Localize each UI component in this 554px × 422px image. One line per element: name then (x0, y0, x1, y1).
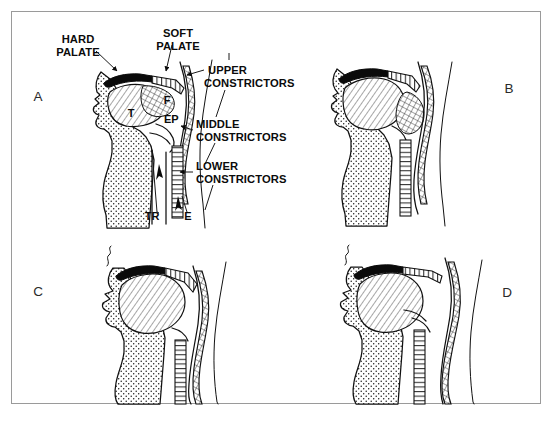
panel-b-neck-contour (440, 62, 452, 226)
callout-lower-constrictors-line-1: LOWER (196, 160, 238, 172)
callout-label-lower-constrictors: LOWER CONSTRICTORS (196, 160, 287, 185)
callout-label-middle-constrictors: MIDDLE CONSTRICTORS (196, 118, 287, 143)
panel-c-drawing (102, 246, 226, 404)
anatomical-diagram: HARD PALATE SOFT PALATE UPPER CONSTRICTO… (0, 0, 554, 422)
callout-lower-constrictors-line-2: CONSTRICTORS (196, 173, 287, 185)
inner-label-epiglottis: EP (164, 113, 179, 125)
callout-middle-constrictors-line-1: MIDDLE (196, 118, 240, 130)
panel-letter-b: B (504, 81, 513, 96)
inner-label-trachea: TR (145, 210, 160, 222)
lower-constrictors-tail (205, 185, 213, 210)
panel-a-epiglottis-lower (150, 133, 170, 144)
panel-letter-c: C (33, 284, 43, 299)
callout-hard-palate-line-2: PALATE (56, 46, 100, 58)
panel-d-nasal-wisp (345, 245, 349, 265)
callout-label-hard-palate: HARD PALATE (56, 33, 100, 58)
panel-d-drawing (340, 245, 482, 404)
panel-c-neck-contour (214, 262, 226, 404)
panel-b-tongue (343, 78, 404, 130)
callout-label-soft-palate: SOFT PALATE (156, 27, 200, 52)
callout-soft-palate-line-2: PALATE (156, 40, 200, 52)
panel-letter-a: A (33, 89, 42, 104)
panel-letter-d: D (502, 285, 512, 300)
panel-a-airflow-arrow (156, 164, 163, 180)
figure-root: HARD PALATE SOFT PALATE UPPER CONSTRICTO… (0, 0, 554, 422)
panel-c-tongue (119, 274, 185, 333)
callout-hard-palate-line-1: HARD (62, 33, 95, 45)
panel-c-nasal-wisp (107, 246, 111, 266)
panel-c-epiglottis (172, 328, 188, 341)
callout-soft-palate-line-1: SOFT (163, 27, 193, 39)
panel-b-drawing (331, 62, 452, 226)
callout-label-upper-constrictors: UPPER CONSTRICTORS (204, 64, 295, 89)
panel-b-pharynx-pocket (396, 92, 424, 134)
inner-label-food-bolus: F (164, 94, 171, 106)
panel-b-trachea (400, 140, 411, 216)
inner-label-tongue: T (128, 107, 135, 119)
callout-middle-constrictors-line-2: CONSTRICTORS (196, 131, 287, 143)
callout-upper-constrictors-line-2: CONSTRICTORS (204, 77, 295, 89)
middle-constrictors-leader (216, 90, 225, 117)
callout-upper-constrictors-line-1: UPPER (208, 64, 247, 76)
panel-d-tongue (357, 273, 423, 332)
panel-c-trachea (175, 340, 186, 404)
panel-d-neck-contour (470, 260, 482, 404)
inner-label-esophagus: E (184, 210, 191, 222)
panel-d-trachea (414, 330, 425, 404)
